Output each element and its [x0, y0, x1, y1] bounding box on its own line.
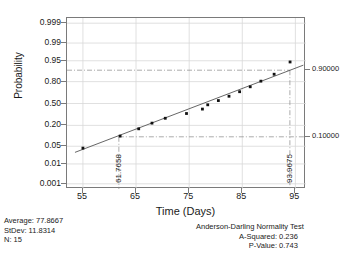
- right-percentile-label: 0.90000: [312, 65, 339, 73]
- stat-average: Average: 77.8667: [4, 216, 63, 226]
- normality-test-p-value: P-Value: 0.743: [196, 241, 304, 251]
- y-tick-label: 0.80: [44, 76, 61, 85]
- normality-test-block: Anderson-Darling Normality Test A-Square…: [196, 222, 304, 251]
- plot-area: [66, 17, 305, 188]
- data-point: [273, 73, 276, 76]
- x-tick-label: 95: [279, 192, 309, 201]
- annotation-lower-percentile-value: 61.7658: [115, 154, 123, 183]
- right-tick-mark: [305, 69, 310, 70]
- data-points: [82, 61, 292, 150]
- y-tick-label: 0.001: [40, 179, 61, 188]
- y-axis-title: Probability: [13, 31, 24, 121]
- x-tick-mark: [82, 188, 83, 193]
- y-tick-label: 0.99: [44, 38, 61, 47]
- probability-plot-figure: Probability 0.9990.990.950.800.500.200.0…: [0, 0, 353, 262]
- x-tick-mark: [135, 188, 136, 193]
- data-point: [137, 127, 140, 130]
- data-point: [164, 117, 167, 120]
- x-tick-label: 75: [173, 192, 203, 201]
- y-tick-label: 0.50: [44, 98, 61, 107]
- reference-lines: [67, 70, 306, 189]
- data-point: [119, 135, 122, 138]
- annotation-upper-percentile-value: 93.9675: [286, 154, 294, 183]
- x-tick-mark: [188, 188, 189, 193]
- x-tick-mark: [241, 188, 242, 193]
- summary-statistics: Average: 77.8667 StDev: 11.8314 N: 15: [4, 216, 63, 245]
- data-point: [82, 147, 85, 150]
- data-point: [217, 99, 220, 102]
- x-axis-title: Time (Days): [66, 205, 305, 217]
- data-point: [206, 103, 209, 106]
- y-tick-label: 0.95: [44, 56, 61, 65]
- right-percentile-label: 0.10000: [312, 132, 339, 140]
- plot-canvas: [67, 18, 306, 189]
- data-point: [238, 90, 241, 93]
- x-tick-label: 65: [120, 192, 150, 201]
- data-point: [151, 122, 154, 125]
- normality-test-a-squared: A-Squared: 0.236: [196, 232, 304, 242]
- data-point: [249, 85, 252, 88]
- x-tick-mark: [294, 188, 295, 193]
- normality-test-title: Anderson-Darling Normality Test: [196, 222, 304, 232]
- stat-n: N: 15: [4, 235, 63, 245]
- data-point: [259, 80, 262, 83]
- y-tick-label: 0.20: [44, 120, 61, 129]
- stat-stdev: StDev: 11.8314: [4, 226, 63, 236]
- x-tick-label: 85: [226, 192, 256, 201]
- data-point: [201, 108, 204, 111]
- gridlines: [67, 18, 306, 189]
- data-point: [289, 61, 292, 64]
- x-tick-label: 55: [67, 192, 97, 201]
- y-tick-label: 0.999: [40, 18, 61, 27]
- right-tick-mark: [305, 136, 310, 137]
- y-tick-label: 0.01: [44, 159, 61, 168]
- data-point: [228, 95, 231, 98]
- data-point: [185, 112, 188, 115]
- y-tick-label: 0.05: [44, 141, 61, 150]
